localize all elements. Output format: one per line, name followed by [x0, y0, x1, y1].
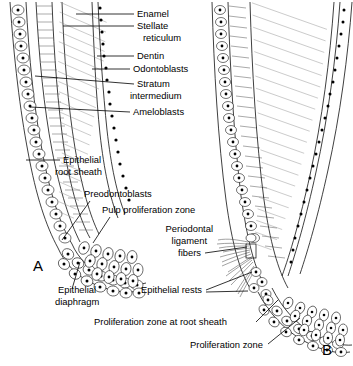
ld-ameloblasts	[30, 107, 130, 112]
label-epith-root-1: Epithelial	[63, 154, 101, 165]
label-prolif-zone: Proliferation zone	[190, 339, 263, 350]
panel-b-drawing	[212, 0, 352, 357]
panel-letter-b: B	[322, 341, 332, 358]
rest-cells	[249, 268, 271, 299]
panel-b-pulp-cavity	[244, 0, 340, 288]
label-perio-1: Periodontal	[166, 223, 213, 234]
label-odontoblasts: Odontoblasts	[133, 63, 189, 74]
panel-letter-a: A	[33, 257, 43, 274]
odontoblast-nuclei	[98, 6, 130, 201]
left-wall-cells	[215, 6, 260, 243]
label-stratum: Stratum	[137, 78, 170, 89]
label-enamel: Enamel	[137, 8, 169, 19]
label-ameloblasts: Ameloblasts	[133, 106, 184, 117]
label-epith-root-2: root sheath	[55, 166, 102, 177]
label-epith-diaphragm-2: diaphragm	[55, 296, 99, 307]
figure-root-development: EnamelStellatereticulumDentinOdontoblast…	[0, 0, 353, 366]
panel-b-left-wall	[212, 2, 285, 288]
anatomy-illustration: EnamelStellatereticulumDentinOdontoblast…	[0, 0, 353, 366]
panel-a-odontoblast-border	[98, 2, 131, 214]
ld-rests-b	[206, 291, 248, 292]
panel-a-outer-cell-column	[10, 2, 72, 248]
label-perio-3: fibers	[178, 247, 201, 258]
panel-a-drawing	[10, 0, 146, 298]
label-epith-rests: Epithelial rests	[141, 284, 202, 295]
label-epith-diaphragm-1: Epithelial	[58, 284, 96, 295]
panel-a-inner-columnar-layer	[36, 2, 93, 242]
label-reticulum: reticulum	[143, 32, 181, 43]
label-intermedium: intermedium	[130, 90, 182, 101]
label-texts: EnamelStellatereticulumDentinOdontoblast…	[55, 8, 263, 350]
label-pulp-prolif: Pulp proliferation zone	[102, 204, 195, 215]
label-dentin: Dentin	[137, 50, 164, 61]
ld-pulp	[93, 217, 110, 243]
pulp-hatching	[244, 0, 340, 274]
label-stellate: Stellate	[137, 20, 168, 31]
panel-b-epithelial-rests	[249, 268, 271, 299]
label-perio-2: ligament	[172, 235, 208, 246]
label-preodontoblasts: Preodontoblasts	[84, 188, 152, 199]
label-prolif-root-sheath: Proliferation zone at root sheath	[94, 316, 227, 327]
panel-b-proliferation-apex	[257, 288, 352, 357]
